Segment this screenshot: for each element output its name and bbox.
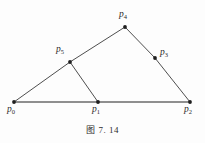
vertex-p5	[68, 60, 72, 64]
segment-p5-p4	[70, 27, 125, 62]
label-p0: p0	[7, 105, 15, 115]
figure-container: p0p1p2p3p4p5 图 7. 14	[0, 0, 205, 143]
label-p1: p1	[92, 105, 100, 115]
label-p3-subscript: 3	[165, 51, 168, 58]
label-p4-subscript: 4	[124, 13, 127, 20]
segment-p5-p1	[70, 62, 98, 102]
label-p3: p3	[160, 48, 168, 58]
geometry-diagram	[0, 0, 205, 143]
segment-p0-p5	[14, 62, 70, 102]
segment-p3-p2	[155, 58, 190, 102]
label-p2: p2	[184, 105, 192, 115]
label-p4: p4	[119, 10, 127, 20]
label-p5-subscript: 5	[61, 48, 64, 55]
vertex-p0	[12, 100, 16, 104]
vertex-p3	[153, 56, 157, 60]
label-p0-subscript: 0	[12, 108, 15, 115]
segment-layer	[14, 27, 190, 102]
label-p2-subscript: 2	[189, 108, 192, 115]
label-p1-subscript: 1	[97, 108, 100, 115]
vertex-p4	[123, 25, 127, 29]
label-p5: p5	[56, 45, 64, 55]
figure-caption: 图 7. 14	[0, 123, 205, 136]
vertex-layer	[12, 25, 192, 104]
segment-p4-p3	[125, 27, 155, 58]
